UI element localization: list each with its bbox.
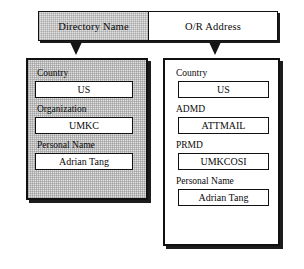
attribute-label-admd: ADMD	[172, 103, 271, 115]
or-address-panel: Country US ADMD ATTMAIL PRMD UMKCOSI Per…	[163, 58, 280, 246]
attribute-group-organization: Organization UMKC	[35, 103, 139, 134]
attribute-value-personal-name: Adrian Tang	[35, 153, 133, 170]
down-arrow-icon-or-address	[209, 42, 221, 55]
attribute-label-organization: Organization	[35, 103, 139, 115]
diagram-header-bar: Directory Name O/R Address	[38, 11, 278, 41]
attribute-group-personal-name: Personal Name Adrian Tang	[35, 139, 139, 170]
header-cell-or-address: O/R Address	[149, 12, 277, 40]
attribute-value-country: US	[35, 81, 133, 98]
header-cell-directory-name: Directory Name	[39, 12, 149, 40]
attribute-value-admd: ATTMAIL	[178, 117, 269, 134]
attribute-label-personal-name: Personal Name	[35, 139, 139, 151]
attribute-label-prmd: PRMD	[172, 139, 271, 151]
attribute-label-personal-name: Personal Name	[172, 175, 271, 187]
directory-name-panel: Country US Organization UMKC Personal Na…	[26, 58, 148, 200]
attribute-value-organization: UMKC	[35, 117, 133, 134]
attribute-value-prmd: UMKCOSI	[178, 153, 269, 170]
attribute-label-country: Country	[172, 67, 271, 79]
attribute-group-admd: ADMD ATTMAIL	[172, 103, 271, 134]
attribute-label-country: Country	[35, 67, 139, 79]
attribute-group-country: Country US	[35, 67, 139, 98]
attribute-value-personal-name: Adrian Tang	[178, 189, 269, 206]
attribute-value-country: US	[178, 81, 269, 98]
down-arrow-icon-directory	[70, 42, 82, 55]
attribute-group-prmd: PRMD UMKCOSI	[172, 139, 271, 170]
attribute-group-personal-name: Personal Name Adrian Tang	[172, 175, 271, 206]
directory-name-to-or-address-diagram: Directory Name O/R Address Country US Or…	[0, 0, 304, 269]
attribute-group-country: Country US	[172, 67, 271, 98]
